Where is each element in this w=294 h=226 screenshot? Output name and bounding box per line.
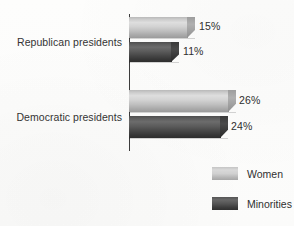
legend-item-minorities: Minorities — [212, 196, 292, 211]
legend-swatch-minorities-icon — [212, 197, 238, 210]
bar-shadow — [129, 112, 236, 113]
bar-shadow — [129, 38, 195, 39]
category-label-democratic-presidents: Democratic presidents — [16, 111, 122, 123]
value-label-democratic-minorities: 24% — [231, 120, 252, 132]
bar-end-cap — [171, 42, 179, 62]
bar-end-cap — [220, 116, 228, 138]
bar-shadow — [129, 138, 228, 139]
bar-shadow — [129, 62, 179, 63]
legend-item-women: Women — [212, 166, 283, 181]
bar-face — [129, 42, 172, 62]
bar-end-cap — [187, 17, 195, 38]
bar-end-cap — [228, 90, 236, 112]
value-label-democratic-women: 26% — [239, 94, 260, 106]
category-label-republican-presidents: Republican presidents — [17, 36, 122, 48]
legend-label-minorities: Minorities — [247, 198, 292, 210]
value-label-republican-minorities: 11% — [183, 45, 204, 57]
value-label-republican-women: 15% — [199, 20, 220, 32]
bar-face — [129, 116, 221, 138]
bar-republican-women — [129, 17, 188, 38]
bar-democratic-minorities — [129, 116, 221, 138]
bar-face — [129, 17, 188, 38]
bar-face — [129, 90, 229, 112]
bar-democratic-women — [129, 90, 229, 112]
legend-label-women: Women — [247, 168, 283, 180]
bar-chart: Republican presidents Democratic preside… — [0, 0, 294, 226]
bar-republican-minorities — [129, 42, 172, 62]
legend-swatch-women-icon — [212, 167, 238, 180]
